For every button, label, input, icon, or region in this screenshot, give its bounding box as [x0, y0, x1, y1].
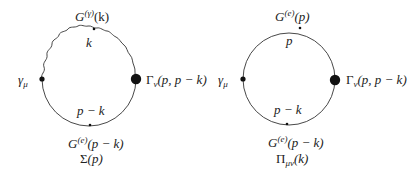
bottom-midpoint-dot — [286, 123, 289, 126]
vertex-gamma-dot — [240, 76, 245, 81]
photon-midpoint-dot — [93, 28, 96, 31]
vertex-Gamma-dot — [330, 75, 340, 85]
top-propagator-label: G(e)(p) — [275, 6, 310, 24]
diagram-caption-pi: Πμν(k) — [276, 152, 308, 170]
photon-propagator-wavy-line — [42, 25, 136, 79]
vertex-gamma-dot — [39, 76, 44, 81]
electron-midpoint-dot — [89, 124, 92, 127]
electron-propagator-label: G(e)(p − k) — [68, 133, 124, 151]
vertex-Gamma-dot — [131, 74, 141, 84]
left-vertex-label: γμ — [218, 73, 228, 91]
bottom-propagator-label: G(e)(p − k) — [268, 132, 324, 150]
top-momentum-label: p — [286, 34, 293, 48]
photon-momentum-label: k — [86, 36, 92, 50]
right-vertex-label: Γν(p, p − k) — [346, 73, 407, 91]
photon-propagator-label: G(γ)(k) — [75, 6, 109, 24]
right-vertex-label: Γν(p, p − k) — [146, 73, 207, 91]
top-midpoint-dot — [299, 27, 302, 30]
left-vertex-label: γμ — [18, 73, 28, 91]
electron-momentum-label: p − k — [77, 104, 105, 118]
bottom-momentum-label: p − k — [274, 103, 302, 117]
diagram-caption-sigma: Σ(p) — [80, 152, 103, 166]
